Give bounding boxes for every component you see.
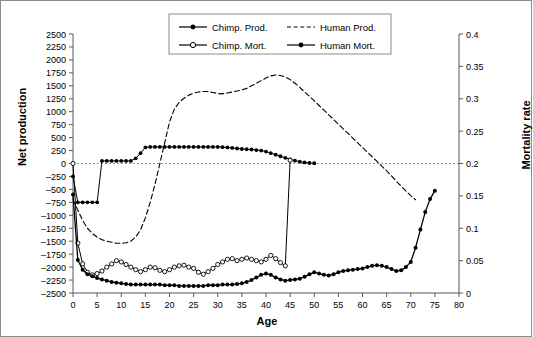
data-point [105, 265, 109, 269]
data-point [414, 246, 418, 250]
data-point [264, 150, 268, 154]
data-point [250, 278, 254, 282]
data-point [312, 270, 316, 274]
data-point [216, 283, 220, 287]
data-point [254, 259, 258, 263]
y-left-tick-label: 1750 [46, 68, 66, 78]
x-tick-label: 60 [357, 300, 367, 310]
data-point [168, 145, 172, 149]
data-point [192, 284, 196, 288]
series-1 [71, 145, 316, 204]
y-left-tick-label: 2500 [46, 30, 66, 40]
data-point [105, 159, 109, 163]
data-point [95, 276, 99, 280]
data-point [293, 159, 297, 163]
data-point [269, 273, 273, 277]
data-point [418, 228, 422, 232]
data-point [115, 159, 119, 163]
data-point [177, 284, 181, 288]
x-tick-label: 70 [406, 300, 416, 310]
x-tick-label: 75 [430, 300, 440, 310]
data-point [245, 256, 249, 260]
data-point [361, 266, 365, 270]
series-line [73, 191, 435, 286]
data-point [129, 283, 133, 287]
data-point [139, 151, 143, 155]
data-point [172, 265, 176, 269]
y-left-tick-label: 500 [51, 133, 66, 143]
data-point [370, 264, 374, 268]
data-point [351, 268, 355, 272]
legend-marker [190, 42, 195, 47]
data-point [129, 159, 133, 163]
data-point [138, 270, 142, 274]
chart-canvas: –2500–2250–2000–1750–1500–1250–1000–750–… [1, 1, 533, 337]
data-point [158, 145, 162, 149]
data-point [192, 145, 196, 149]
data-point [211, 283, 215, 287]
data-point [298, 277, 302, 281]
data-point [211, 266, 215, 270]
series-line [73, 160, 290, 275]
y-right-tick-label: 0.25 [466, 127, 484, 137]
data-point [274, 275, 278, 279]
y-right-tick-label: 0.1 [466, 224, 479, 234]
data-point [216, 262, 220, 266]
y-left-tick-label: –2500 [41, 289, 66, 299]
x-tick-label: 10 [116, 300, 126, 310]
data-point [235, 147, 239, 151]
data-point [134, 156, 138, 160]
y-right-tick-label: 0.05 [466, 256, 484, 266]
x-tick-label: 55 [333, 300, 343, 310]
data-point [119, 159, 123, 163]
x-tick-label: 45 [285, 300, 295, 310]
data-point [409, 260, 413, 264]
data-point [380, 264, 384, 268]
y-left-tick-label: –2250 [41, 276, 66, 286]
data-point [259, 260, 263, 264]
y-right-tick-label: 0.3 [466, 94, 479, 104]
data-point [220, 260, 224, 264]
data-point [81, 268, 85, 272]
x-tick-label: 15 [140, 300, 150, 310]
data-point [143, 268, 147, 272]
data-point [245, 280, 249, 284]
y-left-tick-label: –500 [46, 185, 66, 195]
data-point [110, 159, 114, 163]
series-2 [73, 75, 416, 243]
data-point [187, 284, 191, 288]
data-point [172, 145, 176, 149]
data-point [177, 145, 181, 149]
data-point [153, 283, 157, 287]
data-point [110, 280, 114, 284]
data-point [81, 200, 85, 204]
data-point [153, 266, 157, 270]
data-point [221, 145, 225, 149]
data-point [283, 264, 287, 268]
data-point [221, 283, 225, 287]
data-point [192, 266, 196, 270]
y-left-tick-label: 1500 [46, 81, 66, 91]
y-left-tick-label: –1500 [41, 237, 66, 247]
legend-label: Chimp. Mort. [212, 40, 266, 51]
data-point [240, 281, 244, 285]
data-point [264, 257, 268, 261]
data-point [139, 283, 143, 287]
data-point [399, 268, 403, 272]
legend-label: Chimp. Prod. [212, 22, 267, 33]
data-point [259, 273, 263, 277]
data-point [124, 159, 128, 163]
y-left-tick-label: –1750 [41, 250, 66, 260]
data-point [346, 268, 350, 272]
data-point [235, 282, 239, 286]
data-point [288, 278, 292, 282]
data-point [293, 277, 297, 281]
data-point [317, 272, 321, 276]
data-point [240, 257, 244, 261]
y-left-tick-label: –250 [46, 172, 66, 182]
y-left-tick-label: 250 [51, 146, 66, 156]
legend-marker [299, 43, 304, 48]
data-point [230, 146, 234, 150]
data-point [148, 265, 152, 269]
data-point [283, 156, 287, 160]
